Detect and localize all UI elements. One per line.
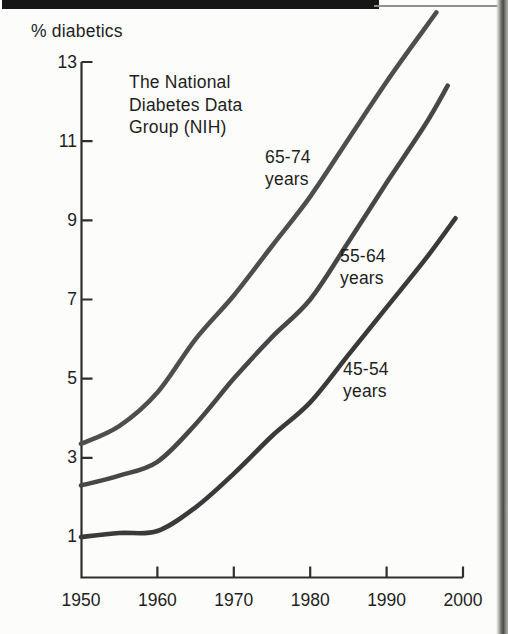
- y-tick-label-9: 9: [37, 210, 77, 231]
- axis-lines: [82, 62, 464, 578]
- series-label-55-64: 55-64 years: [340, 246, 386, 289]
- y-tick-label-1: 1: [37, 526, 77, 547]
- series-label-65-74: 65-74 years: [265, 147, 311, 190]
- curve-45-54-years: [81, 218, 455, 537]
- x-tick-label-1980: 1980: [291, 590, 330, 611]
- scanned-book-page: % diabetics The National Diabetes Data G…: [0, 0, 508, 634]
- y-tick-label-5: 5: [37, 368, 77, 389]
- y-tick-label-11: 11: [37, 131, 77, 152]
- series-label-45-54: 45-54 years: [343, 359, 389, 402]
- x-tick-label-1950: 1950: [62, 590, 101, 611]
- y-tick-label-13: 13: [37, 52, 77, 73]
- y-tick-label-7: 7: [37, 289, 77, 310]
- curve-55-64-years: [81, 86, 448, 486]
- y-tick-label-3: 3: [37, 447, 77, 468]
- x-tick-label-1970: 1970: [214, 590, 253, 611]
- curves: [81, 13, 455, 538]
- x-tick-label-1960: 1960: [138, 590, 177, 611]
- x-tick-label-1990: 1990: [367, 590, 406, 611]
- x-tick-label-2000: 2000: [444, 590, 483, 611]
- axes: [82, 62, 464, 578]
